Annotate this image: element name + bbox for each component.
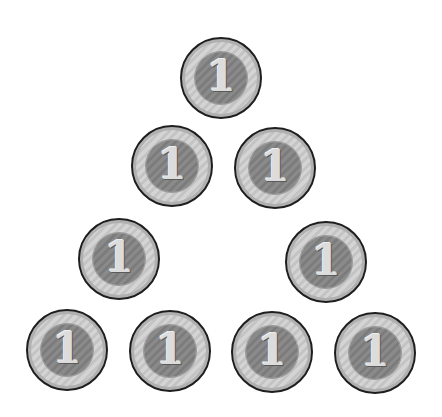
coin-face: 1 (144, 325, 196, 377)
coin-row3-1: 1 (78, 218, 160, 300)
coin-face: 1 (195, 52, 247, 104)
coin-row2-1: 1 (131, 125, 213, 207)
coin-value: 1 (104, 237, 133, 279)
coin-face: 1 (349, 327, 401, 379)
coin-row4-3: 1 (231, 311, 313, 393)
coin-face: 1 (93, 233, 145, 285)
coin-face: 1 (146, 140, 198, 192)
coin-row3-2: 1 (285, 221, 367, 303)
coin-value: 1 (155, 329, 184, 371)
coin-value: 1 (206, 56, 235, 98)
coin-row2-2: 1 (234, 127, 316, 209)
coin-face: 1 (246, 326, 298, 378)
coin-value: 1 (257, 330, 286, 372)
coin-face: 1 (249, 142, 301, 194)
coin-face: 1 (300, 236, 352, 288)
coin-value: 1 (157, 144, 186, 186)
coin-value: 1 (360, 331, 389, 373)
coin-row4-1: 1 (26, 309, 108, 391)
coin-face: 1 (41, 324, 93, 376)
coin-value: 1 (52, 328, 81, 370)
coin-row4-2: 1 (129, 310, 211, 392)
coin-row1-1: 1 (180, 37, 262, 119)
coin-value: 1 (260, 146, 289, 188)
coin-row4-4: 1 (334, 312, 416, 394)
coin-value: 1 (311, 240, 340, 282)
